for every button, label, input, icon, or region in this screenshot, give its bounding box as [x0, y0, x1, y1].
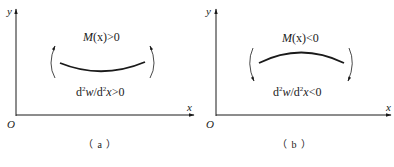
curvature-label: d2w/d2x>0	[76, 86, 124, 98]
moment-label: M(x)>0	[83, 31, 120, 43]
x-axis-label: x	[187, 102, 192, 113]
moment-label: M(x)<0	[282, 32, 319, 44]
moment-arrow-right	[348, 48, 352, 81]
origin-label: O	[7, 119, 15, 130]
y-axis-label: y	[7, 6, 12, 17]
moment-arrow-left	[250, 48, 254, 81]
panel-a: y x O M(x)>0 d2w/d2x>0 （ a ）	[0, 0, 197, 167]
moment-arrow-left	[51, 46, 55, 78]
panel-caption: （ a ）	[83, 140, 117, 150]
deflection-curve	[60, 62, 145, 71]
panel-b: y x O M(x)<0 d2w/d2x<0 （ b ）	[197, 0, 394, 167]
moment-arrow-right	[150, 46, 154, 78]
origin-label: O	[206, 119, 214, 130]
curvature-label: d2w/d2x<0	[273, 86, 321, 98]
y-axis-label: y	[206, 6, 211, 17]
deflection-curve	[259, 53, 344, 64]
x-axis-label: x	[386, 102, 391, 113]
panel-caption: （ b ）	[277, 140, 312, 150]
